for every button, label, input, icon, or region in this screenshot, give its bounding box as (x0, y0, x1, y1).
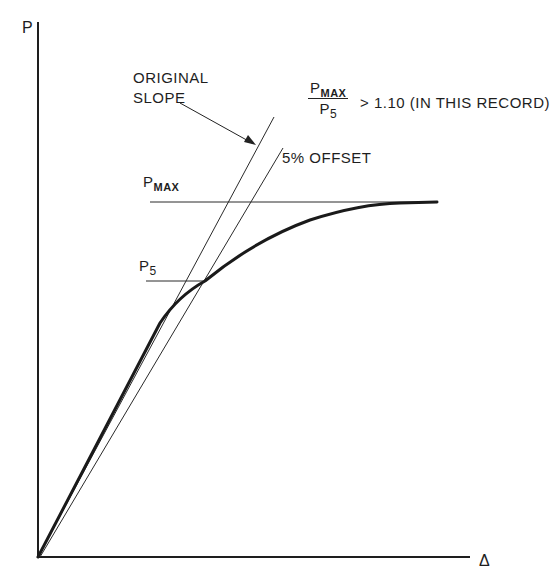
original-slope-leader-line (180, 103, 252, 143)
load-deflection-diagram (0, 0, 560, 581)
pmax-label-sub: MAX (154, 181, 180, 193)
x-axis-label: Δ (479, 553, 490, 569)
ratio-denominator-sub: 5 (330, 107, 337, 121)
ratio-numerator: PMAX (308, 80, 348, 99)
original-slope-line2: SLOPE (133, 89, 186, 106)
ratio-relation: > 1.10 (IN THIS RECORD) (360, 95, 550, 110)
ratio-denominator: P5 (308, 99, 348, 116)
pmax-label-base: P (143, 173, 154, 190)
p5-label-base: P (139, 257, 150, 274)
ratio-fraction: PMAX P5 (308, 80, 348, 116)
ratio-numerator-base: P (310, 79, 321, 96)
offset-5-percent-line (40, 148, 283, 557)
ratio-denominator-base: P (319, 100, 330, 117)
p5-label: P5 (139, 258, 157, 273)
load-deflection-curve (38, 202, 437, 557)
p5-label-sub: 5 (150, 264, 157, 278)
pmax-label: PMAX (143, 174, 179, 189)
offset-annotation: 5% OFFSET (282, 150, 372, 165)
y-axis-label: P (22, 20, 33, 36)
original-slope-line1: ORIGINAL (133, 69, 209, 86)
original-slope-annotation: ORIGINAL SLOPE (133, 68, 209, 108)
ratio-numerator-sub: MAX (321, 87, 347, 99)
arrowhead-icon (244, 135, 256, 145)
